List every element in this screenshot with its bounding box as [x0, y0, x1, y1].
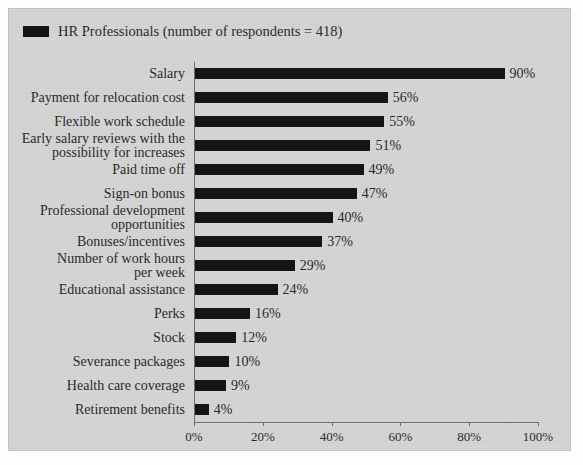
bar	[195, 116, 384, 127]
chart-figure: HR Professionals (number of respondents …	[8, 8, 571, 451]
category-label: Salary	[5, 67, 185, 81]
bar	[195, 332, 236, 343]
x-tick	[263, 422, 264, 426]
bar	[195, 188, 357, 199]
value-label: 90%	[505, 66, 536, 82]
category-label: Early salary reviews with the possibilit…	[5, 132, 185, 161]
bar-row: Educational assistance24%	[194, 278, 538, 302]
value-label: 10%	[229, 354, 260, 370]
category-label: Number of work hours per week	[5, 252, 185, 281]
value-label: 49%	[364, 162, 395, 178]
category-label: Severance packages	[5, 355, 185, 369]
legend-swatch-icon	[23, 26, 49, 37]
category-label: Retirement benefits	[5, 403, 185, 417]
x-tick-label: 0%	[185, 429, 202, 445]
bar	[195, 212, 333, 223]
x-tick	[332, 422, 333, 426]
category-label: Sign-on bonus	[5, 187, 185, 201]
value-label: 4%	[209, 402, 233, 418]
legend-label: HR Professionals (number of respondents …	[58, 24, 342, 39]
x-axis-line	[194, 422, 539, 423]
value-label: 51%	[370, 138, 401, 154]
bar	[195, 356, 229, 367]
bar-row: Bonuses/incentives37%	[194, 230, 538, 254]
bar-row: Salary90%	[194, 62, 538, 86]
bar-row: Sign-on bonus47%	[194, 182, 538, 206]
value-label: 37%	[322, 234, 353, 250]
bar-row: Paid time off49%	[194, 158, 538, 182]
bar-row: Perks16%	[194, 302, 538, 326]
bar	[195, 404, 209, 415]
bar	[195, 308, 250, 319]
category-label: Paid time off	[5, 163, 185, 177]
bar	[195, 380, 226, 391]
bar	[195, 140, 370, 151]
value-label: 40%	[333, 210, 364, 226]
bar-row: Retirement benefits4%	[194, 398, 538, 422]
bar-row: Stock12%	[194, 326, 538, 350]
category-label: Flexible work schedule	[5, 115, 185, 129]
category-label: Bonuses/incentives	[5, 235, 185, 249]
value-label: 16%	[250, 306, 281, 322]
bar-row: Payment for relocation cost56%	[194, 86, 538, 110]
category-label: Payment for relocation cost	[5, 91, 185, 105]
x-tick-label: 20%	[251, 429, 275, 445]
category-label: Health care coverage	[5, 379, 185, 393]
value-label: 9%	[226, 378, 250, 394]
bar-row: Severance packages10%	[194, 350, 538, 374]
x-tick-label: 40%	[320, 429, 344, 445]
x-tick	[400, 422, 401, 426]
bar-row: Health care coverage9%	[194, 374, 538, 398]
bar-row: Early salary reviews with the possibilit…	[194, 134, 538, 158]
bar	[195, 92, 388, 103]
value-label: 56%	[388, 90, 419, 106]
bar-row: Professional development opportunities40…	[194, 206, 538, 230]
category-label: Perks	[5, 307, 185, 321]
x-tick-label: 80%	[457, 429, 481, 445]
bar	[195, 164, 364, 175]
x-tick	[194, 422, 195, 426]
x-tick	[469, 422, 470, 426]
category-label: Professional development opportunities	[5, 204, 185, 233]
category-label: Stock	[5, 331, 185, 345]
bar	[195, 68, 505, 79]
bar-row: Flexible work schedule55%	[194, 110, 538, 134]
x-tick	[538, 422, 539, 426]
chart-legend: HR Professionals (number of respondents …	[23, 24, 342, 39]
value-label: 24%	[278, 282, 309, 298]
category-label: Educational assistance	[5, 283, 185, 297]
plot-area: 0%20%40%60%80%100% Salary90%Payment for …	[194, 62, 538, 422]
bar	[195, 236, 322, 247]
value-label: 29%	[295, 258, 326, 274]
value-label: 55%	[384, 114, 415, 130]
bar	[195, 284, 278, 295]
bar	[195, 260, 295, 271]
x-tick-label: 100%	[523, 429, 553, 445]
value-label: 47%	[357, 186, 388, 202]
value-label: 12%	[236, 330, 267, 346]
x-tick-label: 60%	[388, 429, 412, 445]
bar-row: Number of work hours per week29%	[194, 254, 538, 278]
